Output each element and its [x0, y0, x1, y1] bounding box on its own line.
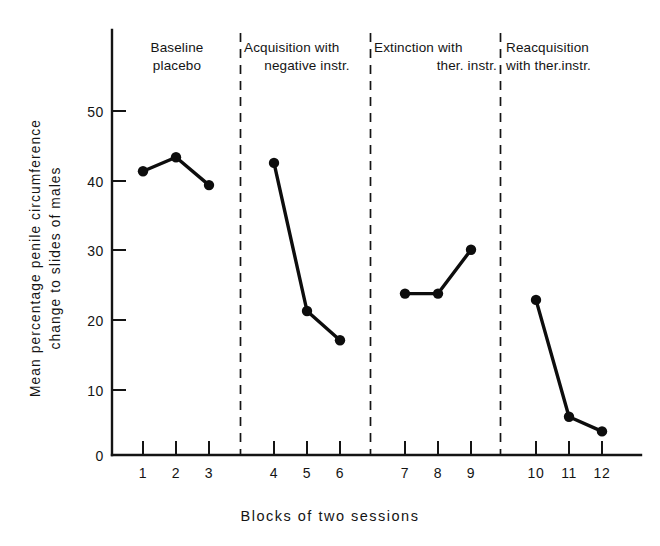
x-tick-label-9: 9 — [467, 465, 475, 481]
x-tick-label-3: 3 — [205, 465, 213, 481]
series-group — [138, 152, 607, 437]
data-point-5 — [302, 306, 312, 316]
data-point-11 — [564, 412, 574, 422]
panel-title-4-line2: with ther.instr. — [505, 58, 591, 73]
x-tick-label-10: 10 — [528, 465, 545, 481]
panel-title-2-line1: Acquisition with — [244, 40, 339, 55]
x-tick-label-12: 12 — [594, 465, 611, 481]
data-point-2 — [171, 152, 181, 162]
data-point-10 — [531, 295, 541, 305]
data-point-4 — [269, 158, 279, 168]
data-point-6 — [335, 335, 345, 345]
series-reacquisition-therapeutic — [531, 295, 607, 437]
x-tick-label-6: 6 — [336, 465, 344, 481]
data-point-3 — [204, 180, 214, 190]
y-tick-label-30: 30 — [87, 243, 104, 259]
x-tick-label-4: 4 — [270, 465, 278, 481]
y-tick-label-50: 50 — [87, 104, 104, 120]
x-tick-label-11: 11 — [561, 465, 577, 481]
panel-title-4-line1: Reacquisition — [506, 40, 589, 55]
series-acquisition-negative — [269, 158, 345, 346]
data-point-8 — [433, 288, 443, 298]
data-point-9 — [466, 245, 476, 255]
x-axis-title: Blocks of two sessions — [241, 508, 420, 524]
x-tick-label-8: 8 — [434, 465, 442, 481]
series-baseline-placebo — [138, 152, 214, 190]
y-ticks-group: 0 10 20 30 40 50 — [87, 104, 126, 464]
y-axis-title-line2: change to slides of males — [48, 166, 63, 349]
panel-title-2-line2: negative instr. — [264, 58, 350, 73]
data-point-1 — [138, 166, 148, 176]
data-point-7 — [400, 288, 410, 298]
panel-separators-group — [241, 33, 501, 455]
y-tick-label-0: 0 — [96, 448, 104, 464]
line-chart: 0 10 20 30 40 50 1 2 3 4 5 6 — [0, 0, 660, 546]
y-axis-title-line1: Mean percentage penile circumference — [28, 119, 43, 397]
x-ticks-group: 1 2 3 4 5 6 7 8 9 10 11 12 — [139, 441, 611, 481]
panel-title-1-line1: Baseline — [151, 40, 204, 55]
panel-title-3-line2: ther. instr. — [437, 58, 497, 73]
panel-title-1-line2: placebo — [153, 58, 201, 73]
x-tick-label-5: 5 — [303, 465, 311, 481]
x-tick-label-1: 1 — [139, 465, 147, 481]
figure-container: 0 10 20 30 40 50 1 2 3 4 5 6 — [0, 0, 660, 546]
panel-title-3-line1: Extinction with — [374, 40, 463, 55]
x-tick-label-2: 2 — [172, 465, 180, 481]
data-point-12 — [597, 426, 607, 436]
series-line-3 — [405, 250, 471, 294]
y-tick-label-40: 40 — [87, 174, 104, 190]
series-extinction-therapeutic — [400, 245, 476, 299]
y-tick-label-20: 20 — [87, 313, 104, 329]
x-tick-label-7: 7 — [401, 465, 409, 481]
y-tick-label-10: 10 — [87, 383, 104, 399]
